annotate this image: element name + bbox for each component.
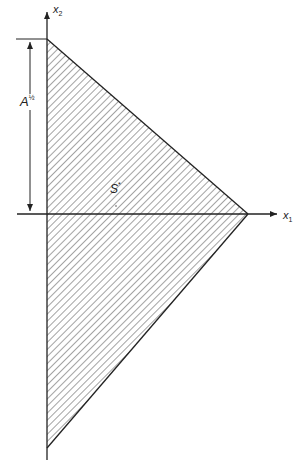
x2-axis-label: x2 bbox=[53, 3, 62, 17]
x1-axis-label: x1 bbox=[283, 209, 292, 223]
region-s-star bbox=[47, 39, 248, 448]
region-label: S* bbox=[110, 181, 121, 196]
diagram-canvas bbox=[0, 0, 307, 473]
dimension-label: A½ bbox=[20, 94, 35, 109]
point-marker bbox=[115, 205, 117, 207]
